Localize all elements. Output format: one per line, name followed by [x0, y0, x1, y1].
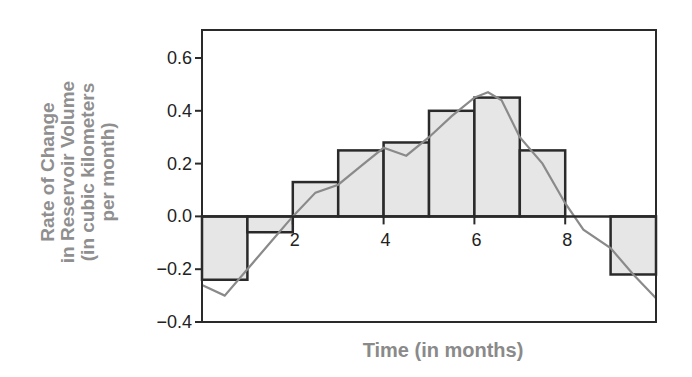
y-axis-label-line: (in cubic kilometers — [77, 83, 98, 261]
y-axis-label-line: per month) — [97, 122, 118, 221]
x-tick-label: 4 — [381, 230, 391, 250]
bar — [384, 142, 429, 216]
y-tick-label: −0.4 — [156, 312, 192, 332]
x-axis-ticks: 2468 — [290, 216, 572, 250]
x-tick-label: 2 — [290, 230, 300, 250]
x-axis-label: Time (in months) — [363, 339, 524, 361]
bar — [474, 98, 519, 217]
bar — [520, 150, 565, 216]
y-axis-label-line: in Reservoir Volume — [57, 81, 78, 263]
bar — [429, 111, 474, 217]
y-tick-label: 0.4 — [167, 101, 192, 121]
bars — [202, 98, 656, 280]
y-tick-label: 0.0 — [167, 206, 192, 226]
bar — [338, 150, 383, 216]
bar — [611, 216, 656, 274]
x-tick-label: 8 — [562, 230, 572, 250]
y-axis-label-line: Rate of Change — [37, 102, 58, 241]
x-tick-label: 6 — [471, 230, 481, 250]
y-tick-label: −0.2 — [156, 259, 192, 279]
y-axis-ticks: 0.60.40.20.0−0.2−0.4 — [156, 48, 202, 332]
y-tick-label: 0.2 — [167, 154, 192, 174]
y-tick-label: 0.6 — [167, 48, 192, 68]
bar — [202, 216, 247, 279]
chart: 0.60.40.20.0−0.2−0.4 2468 Time (in month… — [0, 0, 692, 377]
